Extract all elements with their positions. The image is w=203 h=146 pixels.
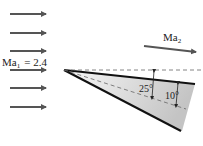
oblique-shock-diagram: 25° 10° Ma1= 2.4 Ma2	[0, 0, 203, 146]
downstream-flow-arrow-icon	[144, 46, 196, 52]
downstream-mach-label: Ma2	[163, 31, 182, 45]
upstream-mach-label: Ma1= 2.4	[2, 56, 47, 70]
angle-10-label: 10°	[165, 90, 179, 101]
angle-25-label: 25°	[139, 83, 153, 94]
